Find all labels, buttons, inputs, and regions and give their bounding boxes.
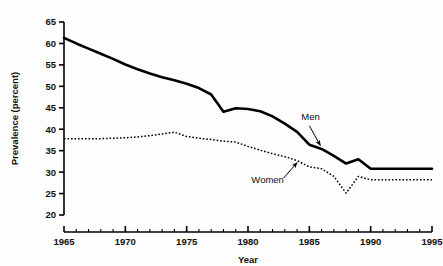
x-axis-tick-label: 1995 (421, 236, 443, 247)
series-line-women (64, 132, 432, 193)
prevalence-line-chart: 2025303540455055606519651970197519801985… (0, 0, 443, 266)
y-axis-tick-label: 30 (45, 167, 56, 178)
annotation-label-women: Women (251, 174, 284, 185)
y-axis-tick-label: 45 (45, 102, 56, 113)
y-axis-tick-label: 25 (45, 188, 56, 199)
chart-container: 2025303540455055606519651970197519801985… (0, 0, 443, 266)
x-axis-tick-label: 1975 (176, 236, 198, 247)
x-axis-tick-label: 1980 (237, 236, 258, 247)
x-axis-tick-label: 1990 (360, 236, 381, 247)
x-axis-title: Year (238, 254, 258, 265)
y-axis-tick-label: 65 (45, 16, 56, 27)
y-axis-tick-label: 55 (45, 59, 56, 70)
y-axis-title: Prevalence (percent) (9, 72, 20, 165)
annotation-arrow-women (284, 163, 297, 178)
x-axis-tick-label: 1985 (299, 236, 321, 247)
y-axis-tick-label: 40 (45, 124, 56, 135)
y-axis-tick-label: 35 (45, 145, 56, 156)
annotation-women: Women (251, 163, 297, 186)
annotation-arrow-men (309, 126, 320, 146)
x-axis-tick-label: 1965 (53, 236, 75, 247)
x-axis-tick-label: 1970 (115, 236, 136, 247)
y-axis-tick-label: 60 (45, 38, 56, 49)
annotation-label-men: Men (301, 111, 319, 122)
series-line-men (64, 38, 432, 169)
y-axis-tick-label: 50 (45, 81, 56, 92)
y-axis-tick-label: 20 (45, 209, 56, 220)
